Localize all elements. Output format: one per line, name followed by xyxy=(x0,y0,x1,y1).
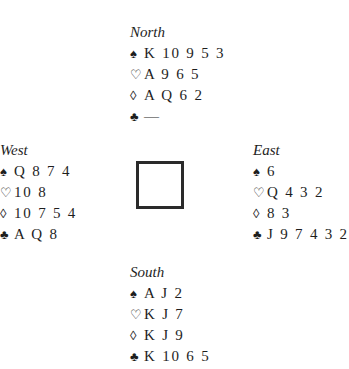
east-hand: East ♠6 ♡Q 4 3 2 ◊8 3 ♣J 9 7 4 3 2 xyxy=(253,140,349,245)
spade-icon: ♠ xyxy=(253,161,267,182)
north-spades: ♠K 10 9 5 3 xyxy=(130,43,225,64)
north-clubs: ♣— xyxy=(130,106,225,127)
heart-icon: ♡ xyxy=(130,304,144,325)
diamond-icon: ◊ xyxy=(130,325,144,346)
north-hearts: ♡A 9 6 5 xyxy=(130,64,225,85)
table-square xyxy=(136,161,184,209)
east-hearts: ♡Q 4 3 2 xyxy=(253,182,349,203)
seat-label-south: South xyxy=(130,262,210,283)
east-diamonds: ◊8 3 xyxy=(253,203,349,224)
club-icon: ♣ xyxy=(130,346,144,367)
north-diamonds: ◊A Q 6 2 xyxy=(130,85,225,106)
heart-icon: ♡ xyxy=(0,182,14,203)
spade-icon: ♠ xyxy=(0,161,14,182)
diamond-icon: ◊ xyxy=(0,203,14,224)
south-clubs: ♣K 10 6 5 xyxy=(130,346,210,367)
seat-label-north: North xyxy=(130,22,225,43)
club-icon: ♣ xyxy=(253,224,267,245)
west-spades: ♠Q 8 7 4 xyxy=(0,161,77,182)
south-diamonds: ◊K J 9 xyxy=(130,325,210,346)
south-hearts: ♡K J 7 xyxy=(130,304,210,325)
north-hand: North ♠K 10 9 5 3 ♡A 9 6 5 ◊A Q 6 2 ♣— xyxy=(130,22,225,127)
east-spades: ♠6 xyxy=(253,161,349,182)
diamond-icon: ◊ xyxy=(130,85,144,106)
seat-label-west: West xyxy=(0,140,77,161)
seat-label-east: East xyxy=(253,140,349,161)
club-icon: ♣ xyxy=(0,224,14,245)
spade-icon: ♠ xyxy=(130,283,144,304)
club-icon: ♣ xyxy=(130,106,144,127)
south-hand: South ♠A J 2 ♡K J 7 ◊K J 9 ♣K 10 6 5 xyxy=(130,262,210,367)
spade-icon: ♠ xyxy=(130,43,144,64)
west-hand: West ♠Q 8 7 4 ♡10 8 ◊10 7 5 4 ♣A Q 8 xyxy=(0,140,77,245)
west-diamonds: ◊10 7 5 4 xyxy=(0,203,77,224)
west-clubs: ♣A Q 8 xyxy=(0,224,77,245)
south-spades: ♠A J 2 xyxy=(130,283,210,304)
west-hearts: ♡10 8 xyxy=(0,182,77,203)
heart-icon: ♡ xyxy=(130,64,144,85)
diamond-icon: ◊ xyxy=(253,203,267,224)
east-clubs: ♣J 9 7 4 3 2 xyxy=(253,224,349,245)
heart-icon: ♡ xyxy=(253,182,267,203)
